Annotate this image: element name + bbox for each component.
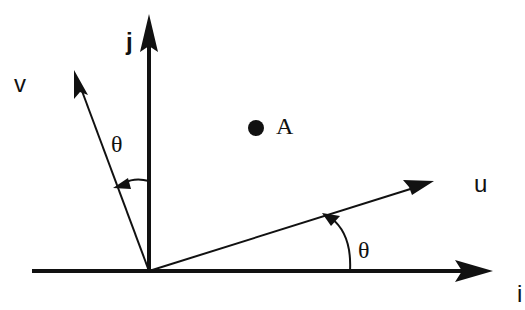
j-axis: [140, 14, 158, 272]
point-a-label: A: [276, 113, 294, 139]
v-vector: [74, 70, 149, 271]
rotated-frame-diagram: j i v u A θ θ: [0, 0, 525, 310]
u-arrowhead-icon: [403, 180, 434, 195]
theta-v-label: θ: [111, 131, 123, 157]
i-axis: [32, 260, 493, 282]
theta-u-arc: [322, 213, 350, 271]
theta-u-label: θ: [358, 237, 370, 263]
v-arrowhead-icon: [74, 70, 88, 99]
point-a-dot: [248, 120, 264, 136]
u-vector: [149, 180, 434, 271]
theta-v-arc: [113, 178, 149, 189]
u-vector-label: u: [474, 170, 487, 197]
j-axis-label: j: [125, 28, 133, 55]
v-vector-label: v: [14, 70, 26, 97]
i-axis-label: i: [517, 280, 522, 307]
